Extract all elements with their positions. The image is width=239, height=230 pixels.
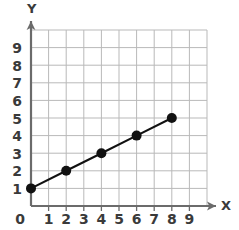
y-tick-label-2: 2 [8, 164, 26, 178]
y-tick-label-9: 9 [8, 41, 26, 55]
data-point [26, 183, 36, 193]
y-tick-label-7: 7 [8, 76, 26, 90]
data-point [132, 131, 142, 141]
y-axis [27, 21, 36, 206]
y-axis-title: Y [27, 2, 36, 15]
y-tick-label-1: 1 [8, 182, 26, 196]
data-point [167, 113, 177, 123]
coordinate-plane-chart: 0 1 2 3 4 5 6 7 8 9 1 2 3 4 5 6 7 8 9 X … [0, 0, 239, 230]
data-point [61, 166, 71, 176]
x-axis [31, 202, 216, 211]
x-axis-title: X [221, 199, 231, 212]
y-tick-label-6: 6 [8, 94, 26, 108]
y-tick-label-4: 4 [8, 129, 26, 143]
y-tick-label-3: 3 [8, 147, 26, 161]
y-tick-label-5: 5 [8, 112, 26, 126]
plot-area [0, 0, 239, 230]
x-tick-label-9: 9 [179, 212, 199, 226]
data-point [96, 148, 106, 158]
y-tick-label-8: 8 [8, 59, 26, 73]
grid-lines [31, 30, 207, 206]
x-tick-label-0: 0 [10, 212, 30, 226]
